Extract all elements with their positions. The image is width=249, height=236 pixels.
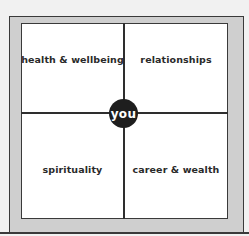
quadrant-health-wellbeing: health & wellbeing [21,23,124,113]
quadrant-career-wealth: career & wealth [124,113,228,219]
quadrant-relationships: relationships [124,23,228,113]
center-you-circle: you [109,99,138,128]
quadrant-label: health & wellbeing [21,54,124,65]
quadrant-label: spirituality [43,164,103,175]
quadrant-spirituality: spirituality [21,113,124,219]
bottom-rule [0,232,249,234]
center-label: you [111,107,137,121]
quadrant-label: career & wealth [133,164,220,175]
quadrant-label: relationships [140,54,211,65]
